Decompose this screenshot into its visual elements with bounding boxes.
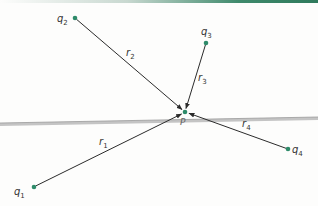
charge-point-q3: [204, 41, 209, 46]
label-r3: r3: [198, 72, 207, 86]
charge-vector-diagram: q1 q2 q3 q4 r1 r2 r3 r4 P: [0, 0, 318, 206]
label-r1: r1: [99, 136, 108, 150]
label-p: P: [180, 117, 186, 127]
charge-point-q1: [32, 185, 37, 190]
charge-point-q4: [286, 147, 291, 152]
target-point-p: [183, 110, 188, 115]
horizontal-gray-band: [0, 117, 318, 125]
diagram-canvas: q1 q2 q3 q4 r1 r2 r3 r4 P: [0, 0, 318, 206]
label-r2: r2: [126, 47, 135, 61]
label-q2: q2: [57, 13, 68, 27]
vector-r2-line: [77, 19, 183, 109]
label-q3: q3: [201, 26, 212, 40]
label-q4: q4: [292, 144, 303, 158]
label-q1: q1: [14, 186, 25, 200]
charge-point-q2: [73, 16, 78, 21]
